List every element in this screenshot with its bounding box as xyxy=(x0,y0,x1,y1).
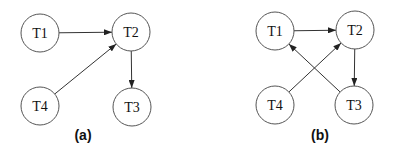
edges-layer xyxy=(55,30,355,94)
node-t2: T2 xyxy=(336,11,374,49)
nodes-layer: T1T2T4T3T1T2T4T3 xyxy=(21,11,374,126)
node-label: T4 xyxy=(32,99,48,114)
edge-t1-t2 xyxy=(59,32,112,33)
node-t3: T3 xyxy=(335,86,373,124)
node-t3: T3 xyxy=(113,88,151,126)
node-label: T3 xyxy=(124,100,140,115)
caption-b: (b) xyxy=(311,127,329,143)
captions-layer: (a) (b) xyxy=(74,127,329,143)
node-t4: T4 xyxy=(256,86,294,124)
node-t1: T1 xyxy=(21,14,59,52)
node-label: T1 xyxy=(267,24,283,39)
diagram-canvas: T1T2T4T3T1T2T4T3 (a) (b) xyxy=(0,0,406,153)
edge-t1-t2 xyxy=(294,30,336,31)
node-t2: T2 xyxy=(112,13,150,51)
node-label: T1 xyxy=(32,26,48,41)
node-t1: T1 xyxy=(256,12,294,50)
node-label: T3 xyxy=(346,98,362,113)
caption-a: (a) xyxy=(74,127,91,143)
node-label: T2 xyxy=(123,25,139,40)
edge-t4-t2 xyxy=(55,44,117,94)
node-label: T2 xyxy=(347,23,363,38)
node-t4: T4 xyxy=(21,87,59,125)
node-label: T4 xyxy=(267,98,283,113)
edge-t4-t2 xyxy=(289,43,341,92)
